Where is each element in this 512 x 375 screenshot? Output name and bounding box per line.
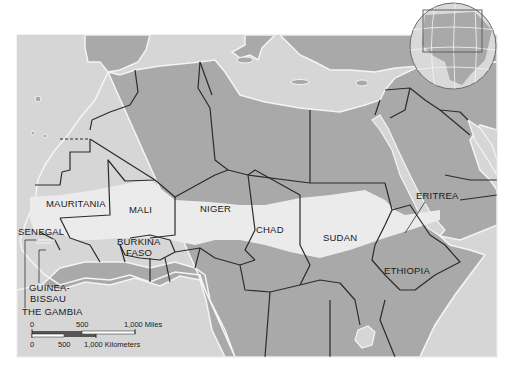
label-eritrea: ERITREA xyxy=(416,190,459,201)
scale-miles-500: 500 xyxy=(76,320,89,329)
label-chad: CHAD xyxy=(256,224,284,235)
label-burkina-2: FASO xyxy=(126,247,152,258)
scale-km-500: 500 xyxy=(58,340,71,349)
label-niger: NIGER xyxy=(200,203,231,214)
sahel-map: MAURITANIA MALI NIGER CHAD SUDAN ERITREA… xyxy=(0,0,512,375)
scale-km-0: 0 xyxy=(30,340,34,349)
label-senegal: SENEGAL xyxy=(18,226,64,237)
label-ethiopia: ETHIOPIA xyxy=(384,265,430,276)
scale-km-1000: 1,000 Kilometers xyxy=(84,340,141,349)
label-mali: MALI xyxy=(129,204,152,215)
scale-miles-1000: 1,000 Miles xyxy=(124,320,163,329)
label-guinea-bissau-1: GUINEA- xyxy=(29,282,70,293)
label-sudan: SUDAN xyxy=(323,232,357,243)
label-mauritania: MAURITANIA xyxy=(46,198,106,209)
label-burkina-1: BURKINA xyxy=(117,236,161,247)
label-the-gambia: THE GAMBIA xyxy=(22,306,83,317)
locator-globe xyxy=(410,3,496,89)
scale-miles-0: 0 xyxy=(30,320,34,329)
label-guinea-bissau-2: BISSAU xyxy=(30,293,66,304)
